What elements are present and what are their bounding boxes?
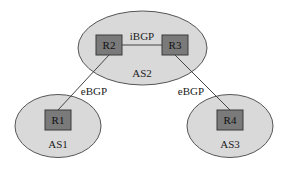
- as2-label: AS2: [132, 67, 152, 79]
- router-r4: R4: [217, 110, 243, 130]
- as1-label: AS1: [48, 138, 68, 150]
- router-r1: R1: [45, 110, 71, 130]
- ebgp-label-right: eBGP: [178, 85, 204, 97]
- router-r3-label: R3: [169, 39, 182, 51]
- router-r4-label: R4: [224, 114, 237, 126]
- bgp-diagram: R2 R3 R1 R4 iBGP eBGP eBGP AS2 AS1 AS3: [0, 0, 288, 176]
- ebgp-label-left: eBGP: [81, 85, 107, 97]
- ibgp-label: iBGP: [130, 30, 154, 42]
- router-r1-label: R1: [52, 114, 65, 126]
- router-r2-label: R2: [103, 39, 116, 51]
- router-r3: R3: [162, 35, 188, 55]
- router-r2: R2: [96, 35, 122, 55]
- as3-label: AS3: [220, 138, 240, 150]
